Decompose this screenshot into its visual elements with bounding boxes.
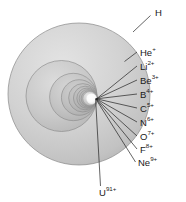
circle-stack <box>8 23 150 165</box>
diagram-canvas: H He+ Li2+ Be3+ B4+ C5+ N6+ O7+ F8+ Ne9+… <box>0 0 186 202</box>
ionic-radii-diagram: H He+ Li2+ Be3+ B4+ C5+ N6+ O7+ F8+ Ne9+… <box>0 0 186 202</box>
circle-core-highlight <box>86 94 96 104</box>
label-N: N6+ <box>140 115 154 127</box>
label-H: H <box>155 7 162 18</box>
label-Li: Li2+ <box>140 59 155 71</box>
label-F: F8+ <box>140 142 153 154</box>
label-Ne: Ne9+ <box>138 155 158 167</box>
label-U: U91+ <box>99 185 117 197</box>
leader-line-H <box>133 16 151 33</box>
label-Be: Be3+ <box>140 73 159 85</box>
label-He: He+ <box>140 45 156 57</box>
label-O: O7+ <box>140 129 155 141</box>
